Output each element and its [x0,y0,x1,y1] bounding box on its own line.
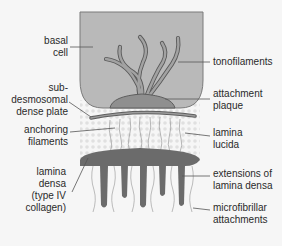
label-line: collagen) [0,202,66,214]
label-line: filaments [0,136,68,148]
label-line: desmosomal [0,94,68,106]
label-sub-desmosomal-dense-plate: sub- desmosomal dense plate [0,82,68,118]
label-lamina-densa: lamina densa (type IV collagen) [0,166,66,214]
label-line: attachment [213,88,262,100]
label-line: sub- [0,82,68,94]
lamina-densa [80,148,200,208]
label-lamina-lucida: lamina lucida [213,127,242,151]
label-attachment-plaque: attachment plaque [213,88,262,112]
label-tonofilaments: tonofilaments [213,56,272,68]
label-line: attachments [213,214,267,226]
label-line: densa [0,178,66,190]
label-extensions-of-lamina-densa: extensions of lamina densa [213,168,272,192]
label-anchoring-filaments: anchoring filaments [0,124,68,148]
label-line: dense plate [0,106,68,118]
label-basal-cell: basal cell [20,35,68,59]
label-line: lucida [213,139,242,151]
label-line: (type IV [0,190,66,202]
label-line: tonofilaments [213,56,272,68]
label-line: anchoring [0,124,68,136]
label-line: microfibrillar [213,202,267,214]
label-microfibrillar-attachments: microfibrillar attachments [213,202,267,226]
label-line: lamina [213,127,242,139]
label-line: basal [20,35,68,47]
label-line: plaque [213,100,262,112]
label-line: lamina [0,166,66,178]
label-line: extensions of [213,168,272,180]
label-line: lamina densa [213,180,272,192]
label-line: cell [20,47,68,59]
